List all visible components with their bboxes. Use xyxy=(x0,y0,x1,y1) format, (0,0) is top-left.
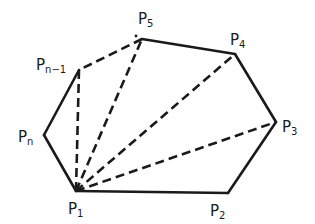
polygon-diagram: P1 P2 P3 P4 P5 Pn−1 Pn xyxy=(0,0,315,224)
edge-p5-pn-1 xyxy=(79,39,142,70)
label-pn-minus-1: Pn−1 xyxy=(36,56,66,75)
edge-p2-p3 xyxy=(228,122,276,193)
diagonal-p1-pn-1 xyxy=(76,70,79,191)
diagonal-p1-p3 xyxy=(76,122,276,191)
label-p3: P3 xyxy=(282,118,297,137)
polygon-dashed-edges xyxy=(79,39,142,70)
edge-p1-p2 xyxy=(76,191,228,193)
label-p5: P5 xyxy=(138,10,153,29)
diagonal-p1-p4 xyxy=(76,54,235,191)
edge-p3-p4 xyxy=(235,54,276,122)
ellipsis-dot xyxy=(135,35,138,38)
edge-pn-p1 xyxy=(44,135,76,191)
label-p4: P4 xyxy=(230,31,245,50)
label-p2: P2 xyxy=(210,202,225,221)
diagonal-p1-p5 xyxy=(76,39,142,191)
diagram-canvas: P1 P2 P3 P4 P5 Pn−1 Pn xyxy=(0,0,315,224)
label-p1: P1 xyxy=(68,200,83,219)
edge-p4-p5 xyxy=(142,39,235,54)
edge-pn-1-pn xyxy=(44,70,79,135)
label-pn: Pn xyxy=(18,128,33,147)
